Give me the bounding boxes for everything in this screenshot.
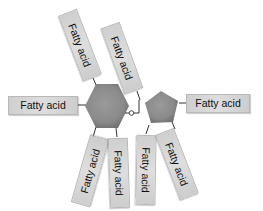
bond-bottom-2 xyxy=(116,128,117,137)
fatty-acid-label: Fatty acid xyxy=(113,150,125,196)
fatty-acid-right: Fatty acid xyxy=(186,94,250,113)
fatty-acid-bottom-2: Fatty acid xyxy=(108,138,130,209)
sucrose-polyester-diagram: Fatty acid Fatty acid Fatty acid Fatty a… xyxy=(0,0,263,211)
bond-top-middle xyxy=(137,91,140,100)
fatty-acid-label: Fatty acid xyxy=(140,147,151,193)
fatty-acid-label: Fatty acid xyxy=(195,98,241,109)
linkage-right xyxy=(134,100,139,113)
fatty-acid-bottom-3: Fatty acid xyxy=(135,135,156,205)
pentagon-ring-icon xyxy=(145,91,178,123)
bond-bottom-3 xyxy=(146,125,149,134)
fatty-acid-label: Fatty acid xyxy=(20,100,66,111)
fatty-acid-left: Fatty acid xyxy=(8,96,78,115)
glycosidic-oxygen-icon xyxy=(129,111,134,116)
